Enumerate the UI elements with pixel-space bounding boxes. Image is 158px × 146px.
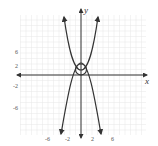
y-tick-label: 6 (15, 49, 18, 55)
x-tick-label: -6 (45, 136, 50, 142)
x-tick-label: 2 (91, 136, 94, 142)
y-tick-label: -2 (13, 83, 18, 89)
y-tick-label: -6 (13, 105, 18, 111)
x-tick-label: -2 (65, 136, 70, 142)
y-tick-label: 2 (15, 63, 18, 69)
x-axis-label: x (144, 76, 149, 86)
graph: x y 6 2 -2 -6 -6 -2 2 6 (0, 0, 158, 146)
x-tick-label: 6 (111, 136, 114, 142)
y-axis-label: y (83, 5, 88, 15)
